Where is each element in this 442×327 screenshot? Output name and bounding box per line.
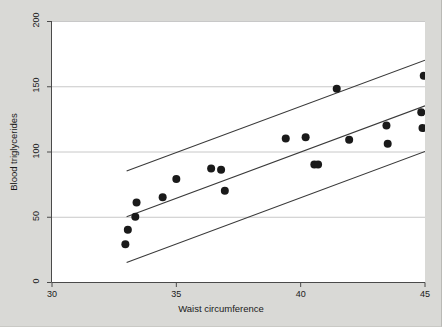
x-tick-label-35: 35 bbox=[171, 289, 181, 299]
data-point bbox=[419, 124, 425, 132]
y-axis-title: Blood triglycerides bbox=[8, 113, 19, 191]
x-axis-title: Waist circumference bbox=[0, 303, 442, 314]
y-tick-label-200: 200 bbox=[31, 10, 41, 30]
data-point bbox=[282, 134, 290, 142]
data-point bbox=[420, 72, 425, 80]
data-point bbox=[345, 136, 353, 144]
x-tick-label-45: 45 bbox=[420, 289, 430, 299]
data-point bbox=[384, 140, 392, 148]
data-point bbox=[382, 121, 390, 129]
data-point bbox=[159, 193, 167, 201]
x-tick-label-30: 30 bbox=[47, 289, 57, 299]
data-point bbox=[217, 166, 225, 174]
trend-line-upper-limit bbox=[127, 60, 425, 171]
data-point bbox=[207, 164, 215, 172]
trend-line-lower-limit bbox=[127, 152, 425, 263]
x-tick-label-40: 40 bbox=[296, 289, 306, 299]
data-point bbox=[221, 187, 229, 195]
data-point bbox=[172, 175, 180, 183]
data-point bbox=[124, 226, 132, 234]
data-point bbox=[131, 213, 139, 221]
trend-line-fit bbox=[127, 106, 425, 217]
y-tick-label-50: 50 bbox=[31, 206, 41, 226]
y-tick-label-0: 0 bbox=[31, 271, 41, 291]
data-point bbox=[314, 161, 322, 169]
data-point bbox=[121, 240, 129, 248]
scatter-plot-svg bbox=[52, 21, 425, 282]
y-tick-label-150: 150 bbox=[31, 75, 41, 95]
chart-figure: Blood triglycerides 050100150200 3035404… bbox=[0, 0, 442, 327]
data-point bbox=[133, 198, 141, 206]
y-axis-title-wrap: Blood triglycerides bbox=[6, 21, 20, 282]
plot-area bbox=[52, 21, 425, 282]
data-point bbox=[302, 133, 310, 141]
y-tick-label-100: 100 bbox=[31, 141, 41, 161]
data-point bbox=[333, 85, 341, 93]
data-point bbox=[417, 108, 425, 116]
